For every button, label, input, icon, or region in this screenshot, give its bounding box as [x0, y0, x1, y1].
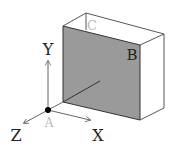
x-axis-arrow	[48, 110, 90, 120]
z-axis-label: Z	[10, 126, 21, 145]
origin-label-a: A	[44, 116, 54, 130]
gray-panel-b	[63, 26, 140, 120]
x-axis-label: X	[92, 126, 104, 145]
origin-point	[45, 107, 51, 113]
diagram-canvas: Y X Z A B C	[0, 0, 174, 148]
y-axis-label: Y	[42, 40, 54, 59]
panel-label-b: B	[126, 46, 137, 64]
corner-label-c: C	[87, 18, 97, 33]
